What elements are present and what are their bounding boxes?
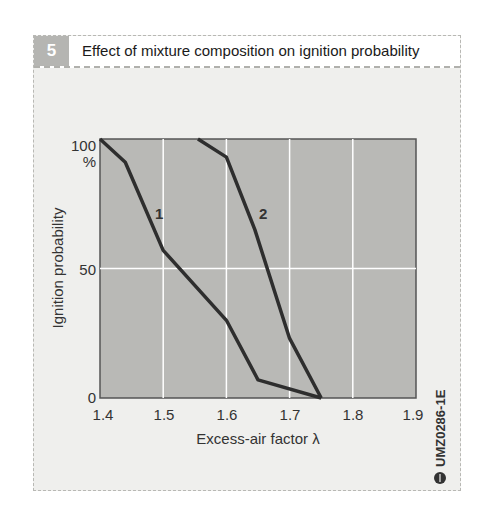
x-tick-1.8: 1.8 xyxy=(343,406,364,423)
y-axis-label: Ignition probability xyxy=(49,207,66,328)
y-tick-100: 100 xyxy=(71,137,96,154)
curve-label-1: 1 xyxy=(155,205,163,222)
figure-code-text: UMZ0286-1E xyxy=(433,389,448,467)
y-tick-50: 50 xyxy=(79,261,96,278)
x-tick-1.9: 1.9 xyxy=(403,406,424,423)
y-tick-0: 0 xyxy=(88,389,96,406)
curve-label-2: 2 xyxy=(259,205,267,222)
x-tick-1.4: 1.4 xyxy=(93,406,114,423)
figure-code: UMZ0286-1E xyxy=(433,389,448,484)
x-tick-1.6: 1.6 xyxy=(217,406,238,423)
y-unit: % xyxy=(83,153,96,170)
line-chart: 1 2 100 % 50 0 1.4 1.5 1.6 1.7 1.8 1.9 E… xyxy=(0,0,480,517)
x-tick-1.7: 1.7 xyxy=(280,406,301,423)
x-tick-1.5: 1.5 xyxy=(154,406,175,423)
x-axis-label: Excess-air factor λ xyxy=(196,430,320,447)
